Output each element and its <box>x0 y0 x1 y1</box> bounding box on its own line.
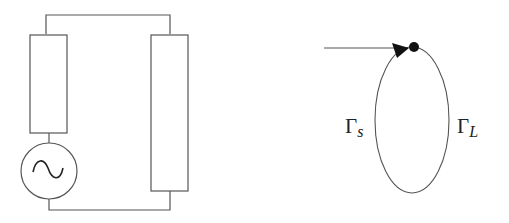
diagram-canvas <box>0 0 509 223</box>
gamma-s-base: Γ <box>345 114 357 138</box>
circuit <box>21 15 188 210</box>
reflection-loop <box>375 47 449 193</box>
source-resistor <box>30 35 67 133</box>
gamma-l-base: Γ <box>457 114 469 138</box>
signal-flow-graph <box>324 42 449 193</box>
gamma-l-sub: L <box>469 123 478 140</box>
top-wire <box>46 15 170 34</box>
gamma-l-label: ΓL <box>457 116 478 140</box>
gamma-s-label: Γs <box>345 116 363 140</box>
gamma-s-sub: s <box>357 123 363 140</box>
load-resistor <box>151 35 188 191</box>
bottom-wire <box>49 191 170 210</box>
node-dot <box>409 42 419 52</box>
sine-wave-icon <box>33 161 63 178</box>
